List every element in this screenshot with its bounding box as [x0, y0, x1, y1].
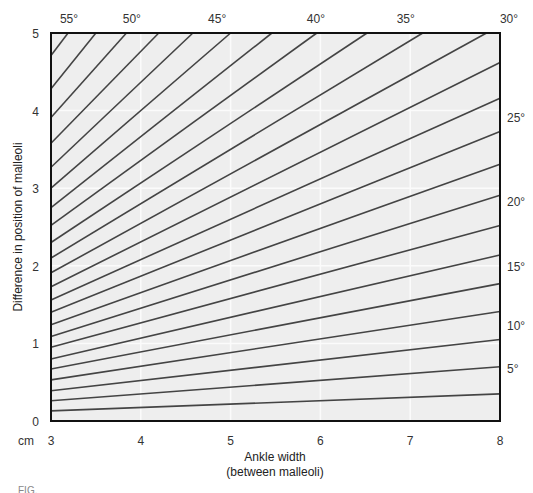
- top-angle-label: 55°: [60, 12, 78, 26]
- y-axis-ticks: 012345: [32, 27, 39, 429]
- x-tick-label: 4: [137, 434, 144, 448]
- right-angle-label: 20°: [507, 195, 525, 209]
- chart: 345678 012345 55°50°45°40°35°30° 25°20°1…: [0, 0, 533, 493]
- x-axis-title: Ankle width: [244, 450, 305, 464]
- y-tick-label: 5: [32, 27, 39, 41]
- x-axis-ticks: 345678: [48, 434, 504, 448]
- y-tick-label: 3: [32, 182, 39, 196]
- top-angle-label: 40°: [307, 12, 325, 26]
- top-angle-label: 50°: [123, 12, 141, 26]
- top-angle-label: 30°: [500, 12, 518, 26]
- y-tick-label: 1: [32, 337, 39, 351]
- x-axis-title-line2: (between malleoli): [226, 465, 323, 479]
- right-angle-label: 25°: [507, 111, 525, 125]
- right-angle-label: 10°: [507, 319, 525, 333]
- top-angle-labels: 55°50°45°40°35°30°: [60, 12, 518, 26]
- y-tick-label: 4: [32, 105, 39, 119]
- figure-caption: FIG.: [18, 484, 533, 493]
- y-axis-title: Difference in position of malleoli: [11, 142, 25, 311]
- y-tick-label: 0: [32, 415, 39, 429]
- x-tick-label: 5: [227, 434, 234, 448]
- x-tick-label: 6: [317, 434, 324, 448]
- top-angle-label: 35°: [397, 12, 415, 26]
- x-tick-label: 8: [497, 434, 504, 448]
- y-tick-label: 2: [32, 260, 39, 274]
- right-angle-label: 5°: [507, 362, 519, 376]
- right-angle-label: 15°: [507, 260, 525, 274]
- unit-label: cm: [18, 434, 34, 448]
- top-angle-label: 45°: [208, 12, 226, 26]
- plot-area: [51, 33, 500, 421]
- x-tick-label: 3: [48, 434, 55, 448]
- right-angle-labels: 25°20°15°10°5°: [507, 111, 525, 376]
- x-tick-label: 7: [407, 434, 414, 448]
